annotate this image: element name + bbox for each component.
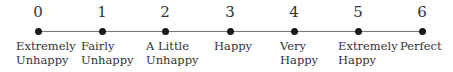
- scale-value: 5: [348, 4, 368, 20]
- scale-value: 1: [92, 4, 112, 20]
- scale-dot-icon: [35, 28, 42, 35]
- scale-dot-icon: [162, 28, 169, 35]
- scale-label: Extremely Unhappy: [16, 39, 76, 67]
- scale-value: 3: [220, 4, 240, 20]
- scale-dot-icon: [291, 28, 298, 35]
- scale-label: Perfect: [400, 39, 442, 53]
- scale-label: A Little Unhappy: [146, 39, 199, 67]
- scale-value: 2: [155, 4, 175, 20]
- scale-label: Extremely Happy: [338, 39, 398, 67]
- scale-dot-icon: [355, 28, 362, 35]
- scale-value: 4: [284, 4, 304, 20]
- scale-dot-icon: [99, 28, 106, 35]
- scale-label: Fairly Unhappy: [81, 39, 134, 67]
- happiness-scale: 0 Extremely Unhappy 1 Fairly Unhappy 2 A…: [0, 0, 453, 72]
- scale-value: 6: [412, 4, 432, 20]
- scale-label: Happy: [214, 39, 252, 53]
- scale-dot-icon: [419, 28, 426, 35]
- scale-dot-icon: [227, 28, 234, 35]
- scale-value: 0: [28, 4, 48, 20]
- scale-label: Very Happy: [280, 39, 318, 67]
